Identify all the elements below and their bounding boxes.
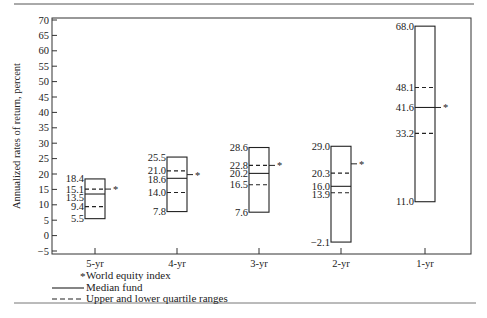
y-tick-label: 5 — [44, 215, 49, 226]
value-label: 18.6 — [148, 174, 166, 185]
x-tick-label: 1-yr — [416, 258, 434, 269]
y-tick-label: 40 — [39, 107, 50, 118]
world-index-star: * — [277, 160, 282, 171]
value-label: 68.0 — [396, 21, 414, 32]
x-tick-label: 4-yr — [168, 258, 186, 269]
value-label: 48.1 — [396, 82, 414, 93]
y-tick-label: 45 — [39, 92, 50, 103]
y-tick-label: −5 — [38, 246, 49, 257]
legend: * World equity index Median fund Upper a… — [52, 269, 228, 304]
box-4-yr: *25.521.018.614.07.8 — [148, 152, 201, 218]
box-1-yr: *68.048.141.633.211.0 — [396, 21, 449, 208]
value-label: 9.4 — [71, 201, 85, 212]
range-box — [331, 146, 351, 242]
box-2-yr: *29.020.316.013.9−2.1 — [311, 141, 364, 248]
y-tick-label: 15 — [39, 184, 50, 195]
y-tick-label: 30 — [39, 138, 50, 149]
value-label: 7.6 — [235, 207, 248, 218]
value-label: 28.6 — [230, 142, 248, 153]
y-axis: 7065605550454035302520151050−5 — [38, 15, 57, 257]
x-tick-label: 2-yr — [332, 258, 350, 269]
y-tick-label: 0 — [44, 230, 49, 241]
y-tick-label: 10 — [39, 199, 50, 210]
value-label: 33.2 — [396, 128, 414, 139]
value-label: 25.5 — [148, 152, 166, 163]
y-tick-label: 70 — [39, 15, 50, 26]
world-index-star: * — [359, 159, 364, 170]
value-label: 29.0 — [312, 141, 330, 152]
y-axis-label: Annualized rates of return, percent — [11, 63, 22, 209]
value-label: 20.2 — [230, 168, 248, 179]
legend-quartile: Upper and lower quartile ranges — [86, 292, 228, 304]
box-chart: 7065605550454035302520151050−5 Annualize… — [0, 0, 487, 318]
range-box — [167, 157, 187, 212]
boxes: *18.415.113.59.45.5*25.521.018.614.07.8*… — [66, 21, 449, 248]
x-axis: 5-yr4-yr3-yr2-yr1-yr — [86, 248, 434, 269]
value-label: 5.5 — [71, 213, 84, 224]
value-label: 14.0 — [148, 187, 166, 198]
range-box — [415, 26, 435, 202]
box-3-yr: *28.622.820.216.57.6 — [230, 142, 283, 218]
box-5-yr: *18.415.113.59.45.5 — [66, 173, 119, 224]
value-label: −2.1 — [311, 237, 330, 248]
y-tick-label: 50 — [39, 76, 50, 87]
world-index-star: * — [113, 184, 118, 195]
value-label: 41.6 — [396, 102, 414, 113]
x-tick-label: 3-yr — [250, 258, 268, 269]
value-label: 16.5 — [230, 179, 248, 190]
legend-star-symbol: * — [80, 270, 86, 282]
y-tick-label: 35 — [39, 122, 50, 133]
y-tick-label: 65 — [39, 30, 50, 41]
y-tick-label: 60 — [39, 45, 50, 56]
y-tick-label: 25 — [39, 153, 50, 164]
value-label: 20.3 — [312, 168, 330, 179]
world-index-star: * — [195, 170, 200, 181]
range-box — [85, 179, 105, 219]
value-label: 13.9 — [312, 189, 330, 200]
world-index-star: * — [443, 102, 448, 113]
legend-world-equity: World equity index — [86, 269, 171, 281]
value-label: 11.0 — [396, 196, 414, 207]
x-tick-label: 5-yr — [86, 258, 104, 269]
y-tick-label: 55 — [39, 61, 50, 72]
range-box — [249, 148, 269, 213]
value-label: 7.8 — [153, 206, 166, 217]
y-tick-label: 20 — [39, 169, 50, 180]
